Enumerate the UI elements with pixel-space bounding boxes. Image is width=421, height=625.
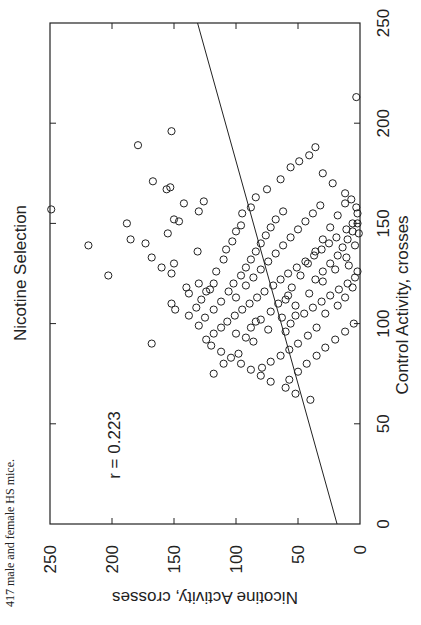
- data-point: [185, 312, 192, 319]
- data-point: [105, 272, 112, 279]
- data-point: [148, 254, 155, 261]
- x-axis-label: Control Activity, crosses: [393, 215, 412, 394]
- data-point: [267, 358, 274, 365]
- x-tick-label: 250: [374, 9, 393, 37]
- data-point: [306, 152, 313, 159]
- data-point: [247, 366, 254, 373]
- data-point: [306, 290, 313, 297]
- correlation-annotation: r = 0.223: [105, 411, 124, 479]
- data-point: [319, 236, 326, 243]
- data-point: [287, 320, 294, 327]
- data-point: [262, 232, 269, 239]
- data-point: [230, 280, 237, 287]
- data-point: [353, 94, 360, 101]
- data-point: [280, 242, 287, 249]
- data-point: [247, 256, 254, 263]
- data-point: [257, 372, 264, 379]
- data-point: [258, 364, 265, 371]
- data-point: [294, 226, 301, 233]
- data-point: [220, 360, 227, 367]
- data-point: [317, 202, 324, 209]
- data-point: [195, 280, 202, 287]
- data-point: [313, 352, 320, 359]
- regression-line: [198, 23, 338, 524]
- data-point: [198, 296, 205, 303]
- data-point: [349, 284, 356, 291]
- y-tick-label: 50: [289, 545, 308, 564]
- data-point: [292, 312, 299, 319]
- data-point: [168, 270, 175, 277]
- data-point: [232, 294, 239, 301]
- data-point: [210, 280, 217, 287]
- data-point: [127, 236, 134, 243]
- scatter-chart: 050100150200250050100150200250 Nicotine …: [0, 0, 421, 625]
- chart-title: Nicotine Selection: [11, 205, 30, 341]
- data-point: [208, 342, 215, 349]
- data-point: [327, 224, 334, 231]
- data-point: [309, 210, 316, 217]
- data-point: [134, 142, 141, 149]
- data-point: [301, 310, 308, 317]
- data-point: [332, 266, 339, 273]
- data-point: [286, 376, 293, 383]
- y-tick-label: 100: [227, 545, 246, 573]
- data-point: [297, 272, 304, 279]
- data-point: [252, 194, 259, 201]
- data-point: [250, 338, 257, 345]
- data-point: [247, 324, 254, 331]
- data-point: [225, 288, 232, 295]
- data-point: [261, 288, 268, 295]
- data-point: [327, 292, 334, 299]
- data-point: [272, 250, 279, 257]
- data-point: [312, 144, 319, 151]
- data-point: [351, 242, 358, 249]
- data-point: [193, 304, 200, 311]
- data-point: [345, 262, 352, 269]
- data-point: [247, 204, 254, 211]
- y-tick-label: 250: [41, 545, 60, 573]
- data-point: [254, 294, 261, 301]
- data-point: [250, 274, 257, 281]
- data-point: [333, 234, 340, 241]
- data-point: [223, 246, 230, 253]
- data-point: [344, 236, 351, 243]
- data-point: [195, 208, 202, 215]
- data-point: [85, 242, 92, 249]
- data-point: [237, 222, 244, 229]
- data-point: [294, 340, 301, 347]
- data-point: [203, 336, 210, 343]
- data-point: [312, 276, 319, 283]
- data-point: [148, 340, 155, 347]
- data-point: [172, 306, 179, 313]
- data-point: [334, 212, 341, 219]
- data-point: [168, 128, 175, 135]
- data-point: [339, 244, 346, 251]
- data-point: [335, 286, 342, 293]
- data-point: [342, 190, 349, 197]
- data-point: [302, 218, 309, 225]
- data-point: [329, 180, 336, 187]
- data-point: [272, 216, 279, 223]
- data-point: [218, 324, 225, 331]
- data-point: [334, 252, 341, 259]
- data-point: [48, 206, 55, 213]
- data-point: [257, 240, 264, 247]
- y-tick-label: 150: [165, 545, 184, 573]
- data-point: [342, 200, 349, 207]
- data-point: [242, 264, 249, 271]
- data-point: [265, 258, 272, 265]
- data-point: [237, 360, 244, 367]
- data-point: [242, 334, 249, 341]
- axis-ticks: [50, 23, 360, 524]
- data-point: [213, 268, 220, 275]
- data-point: [263, 186, 270, 193]
- data-point: [309, 304, 316, 311]
- data-point: [287, 234, 294, 241]
- data-point: [282, 296, 289, 303]
- data-point: [123, 220, 130, 227]
- data-point: [201, 314, 208, 321]
- data-point: [210, 370, 217, 377]
- x-tick-label: 200: [374, 109, 393, 137]
- data-point: [342, 294, 349, 301]
- data-point: [344, 280, 351, 287]
